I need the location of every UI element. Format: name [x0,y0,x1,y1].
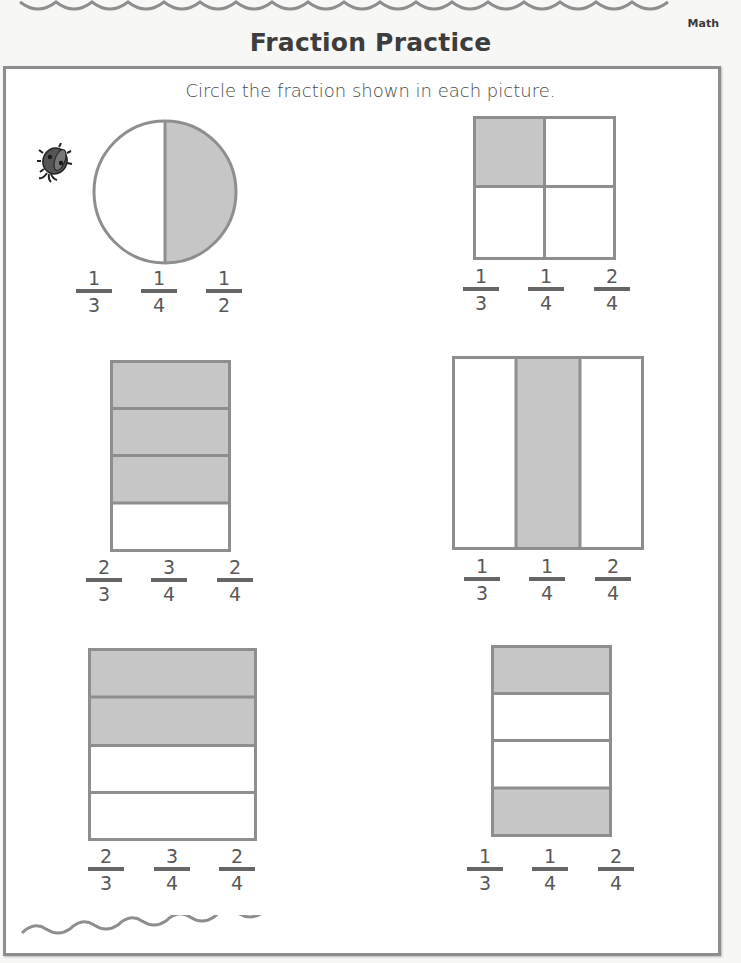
fraction-choice[interactable]: 14 [532,846,568,893]
strips-top-bottom-shaded [491,645,612,837]
fraction-bar [154,867,190,871]
fraction-bar [467,867,503,871]
fraction-bar [219,867,255,871]
fraction-choice[interactable]: 24 [598,846,634,893]
ladybug-icon [37,143,73,183]
fraction-choice[interactable]: 34 [154,846,190,893]
fraction-bar [532,867,568,871]
fraction-choice[interactable]: 12 [206,268,242,315]
fraction-bar [528,287,564,291]
fraction-choice[interactable]: 24 [595,556,631,603]
fraction-choice[interactable]: 13 [463,266,499,313]
fraction-bar [217,578,253,582]
fraction-bar [76,289,112,293]
fraction-choice[interactable]: 24 [594,266,630,313]
strips-three-quarters-shaded [110,360,231,552]
fraction-choice[interactable]: 23 [88,846,124,893]
fraction-choice[interactable]: 14 [141,268,177,315]
fraction-choice[interactable]: 24 [217,557,253,604]
vertical-strips-third-shaded [452,356,644,550]
fraction-choice[interactable]: 13 [464,556,500,603]
fraction-choice[interactable]: 13 [76,268,112,315]
fraction-bar [594,287,630,291]
fraction-bar [595,577,631,581]
fraction-bar [88,867,124,871]
bottom-wavy-border [18,915,718,939]
fraction-choice[interactable]: 14 [529,556,565,603]
top-wavy-border [0,0,741,20]
fraction-bar [529,577,565,581]
page-title: Fraction Practice [0,28,741,57]
fraction-choice[interactable]: 24 [219,846,255,893]
circle-half-shaded [92,119,238,265]
fraction-bar [206,289,242,293]
fraction-bar [598,867,634,871]
fraction-choice[interactable]: 23 [86,557,122,604]
fraction-bar [463,287,499,291]
fraction-choice[interactable]: 13 [467,846,503,893]
instructions-text: Circle the fraction shown in each pictur… [0,80,741,101]
strips-two-quarters-shaded [88,648,257,841]
fraction-bar [464,577,500,581]
square-grid-quarter-shaded [473,116,616,260]
fraction-bar [151,578,187,582]
fraction-choice[interactable]: 34 [151,557,187,604]
fraction-bar [141,289,177,293]
fraction-choice[interactable]: 14 [528,266,564,313]
fraction-bar [86,578,122,582]
